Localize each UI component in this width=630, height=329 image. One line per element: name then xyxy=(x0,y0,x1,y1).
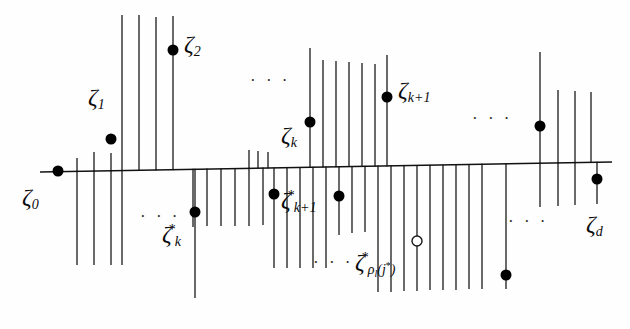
diagram-canvas xyxy=(0,0,630,329)
point-pt-mid-lower xyxy=(334,191,345,202)
point-pt-zeta-1 xyxy=(106,134,117,145)
zeta-glyph: ζ xyxy=(586,211,596,237)
rho-subscript: ρl(j*) xyxy=(368,262,396,277)
point-pt-zeta-d xyxy=(592,174,603,185)
subscript: k+1 xyxy=(408,90,431,105)
subscript: 1 xyxy=(98,97,105,112)
subscript: 0 xyxy=(32,197,39,212)
ellipsis-lower-left: · · · xyxy=(140,208,180,225)
point-pt-zeta-0 xyxy=(53,166,64,177)
subscript: 2 xyxy=(194,44,201,59)
point-pt-zeta-star-k xyxy=(190,207,201,218)
point-pt-zeta-k-plus-1 xyxy=(382,92,393,103)
subscript: k xyxy=(175,234,181,249)
rho-argument-close: ) xyxy=(391,262,396,277)
ellipsis-upper-right: · · · xyxy=(472,110,512,127)
subscript: k xyxy=(291,135,297,150)
zeta-glyph: ζ xyxy=(281,122,291,148)
label-zeta-k: ζk xyxy=(281,123,297,150)
label-zeta-0: ζ0 xyxy=(22,185,39,212)
zeta-glyph: ζ xyxy=(398,77,408,103)
ellipsis-lower-mid: · · · xyxy=(313,254,353,271)
subscript: d xyxy=(596,224,603,239)
subscript: k+1 xyxy=(294,200,317,215)
ellipsis-upper-left: · · · xyxy=(250,72,290,89)
label-zeta-k-plus-1: ζk+1 xyxy=(398,78,430,105)
label-zeta-star-k-plus-1: ζ*k+1 xyxy=(281,188,316,215)
label-zeta-1: ζ1 xyxy=(88,85,105,112)
math-diagram-figure: ζ0ζ1ζ2ζkζk+1ζdζ*kζ*k+1ζ*ρl(j*)· · ·· · ·… xyxy=(0,0,630,329)
label-zeta-star-k: ζ*k xyxy=(162,222,181,249)
label-zeta-star-rho: ζ*ρl(j*) xyxy=(355,250,395,279)
label-zeta-2: ζ2 xyxy=(184,32,201,59)
rho-argument: (j xyxy=(377,262,386,277)
point-pt-zeta-2 xyxy=(168,45,179,56)
zeta-glyph: ζ xyxy=(184,31,194,57)
ellipsis-lower-right: · · · xyxy=(508,213,548,230)
point-pt-zeta-star-k1 xyxy=(269,189,280,200)
zeta-glyph: ζ xyxy=(22,184,32,210)
zeta-glyph: ζ xyxy=(88,84,98,110)
point-pt-lower-right xyxy=(501,270,512,281)
open-point-pt-rho-open xyxy=(412,236,422,246)
point-pt-upper-right xyxy=(535,121,546,132)
point-pt-zeta-k xyxy=(305,117,316,128)
label-zeta-d: ζd xyxy=(586,212,603,239)
